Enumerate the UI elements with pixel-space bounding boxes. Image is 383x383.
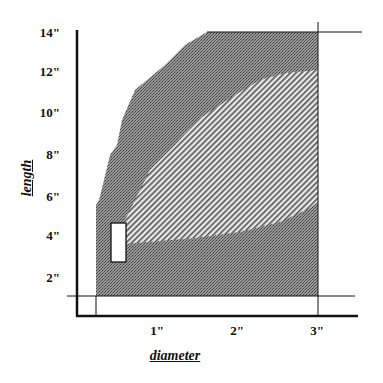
x-axis-title: diameter xyxy=(135,348,215,364)
y-tick-label: 10" xyxy=(20,105,60,121)
x-tick-label: 3" xyxy=(302,323,332,339)
chart-container: 14" 12" 10" 8" 6" 4" 2" 1" 2" 3" length … xyxy=(0,0,383,383)
y-tick-label: 4" xyxy=(20,228,60,244)
y-axis-title: length xyxy=(19,143,35,213)
x-tick-label: 1" xyxy=(142,323,172,339)
y-tick-label: 14" xyxy=(20,25,60,41)
x-tick-label: 2" xyxy=(222,323,252,339)
y-tick-label: 2" xyxy=(20,270,60,286)
y-tick-label: 12" xyxy=(20,64,60,80)
white-rectangle xyxy=(111,223,126,262)
